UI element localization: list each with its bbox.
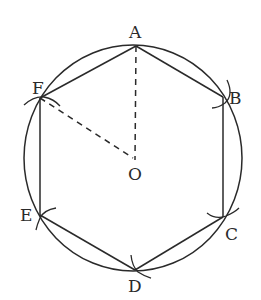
hexagon	[40, 46, 223, 270]
edge-ab	[136, 46, 223, 97]
edge-de	[40, 215, 135, 270]
label-b: B	[229, 88, 242, 108]
label-e: E	[20, 205, 32, 225]
label-d: D	[128, 276, 142, 296]
label-o: O	[128, 164, 142, 184]
hexagon-diagram: A B C D E F O	[0, 0, 261, 300]
dashed-radius-ao	[135, 46, 136, 160]
label-f: F	[32, 78, 44, 98]
arc-f	[24, 97, 60, 106]
label-c: C	[225, 224, 238, 244]
edge-fa	[40, 46, 136, 98]
label-a: A	[128, 22, 142, 42]
dashed-radius-fo	[40, 98, 133, 158]
edge-cd	[135, 217, 223, 270]
